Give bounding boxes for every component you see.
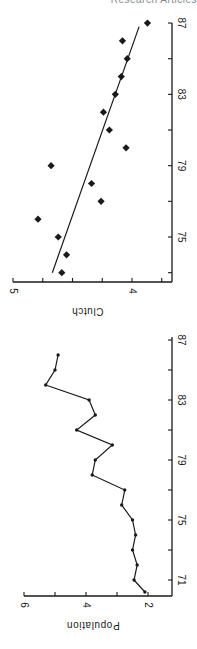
data-point	[75, 428, 78, 431]
data-point-diamond	[34, 216, 41, 223]
data-point	[44, 383, 47, 386]
data-point-diamond	[47, 162, 54, 169]
data-point	[94, 458, 97, 461]
x-tick-label: 75	[176, 514, 187, 526]
data-point-diamond	[63, 251, 70, 258]
x-tick-label: 87	[176, 17, 187, 29]
data-point-diamond	[122, 144, 129, 151]
x-tick-label: 79	[176, 160, 187, 172]
y-tick-label: 4	[81, 602, 92, 608]
data-point	[143, 590, 146, 593]
axis-title: Population	[66, 620, 119, 631]
data-point	[123, 488, 126, 491]
data-point-diamond	[55, 233, 62, 240]
y-tick-label: 5	[8, 288, 19, 294]
x-tick-label: 87	[176, 334, 187, 346]
x-tick-label: 75	[176, 231, 187, 243]
data-point	[132, 578, 135, 581]
x-tick-label: 79	[176, 454, 187, 466]
x-tick-label: 71	[176, 574, 187, 586]
data-point	[111, 443, 114, 446]
data-point	[94, 413, 97, 416]
data-point	[131, 518, 134, 521]
y-tick-label: 6	[19, 602, 30, 608]
data-point	[131, 548, 134, 551]
data-line	[46, 355, 145, 592]
data-point	[120, 503, 123, 506]
y-tick-label: 4	[127, 288, 138, 294]
data-point-diamond	[144, 19, 151, 26]
population-chart: 7175798387642Population	[19, 334, 188, 631]
data-point-diamond	[119, 37, 126, 44]
x-tick-label: 83	[176, 89, 187, 101]
data-point	[91, 473, 94, 476]
data-point-diamond	[88, 180, 95, 187]
data-point	[135, 563, 138, 566]
data-point	[87, 398, 90, 401]
data-point-diamond	[106, 126, 113, 133]
data-point-diamond	[97, 198, 104, 205]
data-point-diamond	[100, 109, 107, 116]
data-point	[56, 353, 59, 356]
data-point	[134, 533, 137, 536]
y-tick-label: 2	[143, 602, 154, 608]
data-point	[53, 368, 56, 371]
data-point-diamond	[58, 269, 65, 276]
clutch-chart: 7579838754Clutch	[8, 17, 188, 317]
figure: 7579838754Clutch 7175798387642Population	[0, 0, 197, 649]
axis-title: Clutch	[72, 306, 104, 317]
x-tick-label: 83	[176, 394, 187, 406]
